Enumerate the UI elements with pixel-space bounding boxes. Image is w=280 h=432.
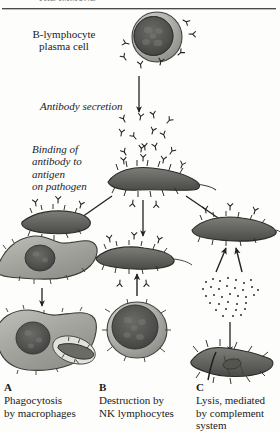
label-plasma-cell: B-lymphocyte plasma cell (14, 28, 114, 53)
label-antibody-secretion: Antibody secretion (40, 100, 140, 112)
pathogen-bacterium-opsonised (108, 155, 216, 208)
caption-letter-a: A (4, 381, 12, 393)
antibody-cloud-binding (121, 143, 176, 156)
caption-letter-b: B (99, 381, 106, 393)
label-binding: Binding of antibody to antigen on pathog… (32, 143, 114, 192)
pathway-a-region[interactable] (0, 200, 95, 380)
antibody-cloud-free (118, 111, 173, 150)
plasma-cell (132, 12, 182, 62)
caption-body-a: Phagocytosis by macrophages (4, 394, 94, 419)
caption-body-c: Lysis, mediated by complement system (196, 394, 280, 432)
pathway-c-region[interactable] (185, 205, 280, 380)
figure-canvas: THE IMMUNE (0, 0, 280, 432)
caption-letter-c: C (196, 381, 204, 393)
caption-body-b: Destruction by NK lymphocytes (99, 394, 194, 419)
pathway-b-region[interactable] (95, 230, 185, 380)
